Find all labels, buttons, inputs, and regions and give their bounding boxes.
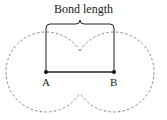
atom-a-label: A xyxy=(42,77,50,88)
bond-length-label: Bond length xyxy=(0,3,167,15)
atom-b-dot xyxy=(112,70,116,74)
atom-a-dot xyxy=(44,70,48,74)
atom-b-label: B xyxy=(110,77,117,88)
bond-length-brace xyxy=(46,20,114,28)
bond-length-diagram xyxy=(0,0,167,120)
